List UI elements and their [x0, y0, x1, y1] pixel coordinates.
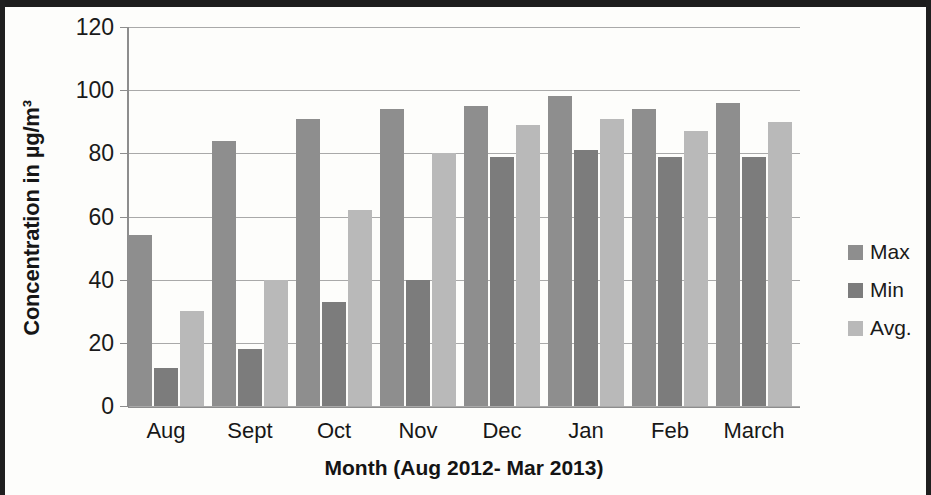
bar-avg-nov [432, 153, 456, 406]
page-frame-top-border [0, 0, 931, 7]
x-axis-tick-label: Sept [227, 418, 272, 444]
x-axis-tick-label: Jan [568, 418, 603, 444]
chart-legend: MaxMinAvg. [848, 233, 912, 347]
bar-avg-aug [180, 311, 204, 406]
y-axis-tick-label: 20 [88, 329, 114, 356]
bar-max-march [716, 103, 740, 406]
bar-max-oct [296, 119, 320, 406]
bar-group [716, 27, 792, 406]
bar-avg-feb [684, 131, 708, 406]
legend-item-max: Max [848, 233, 912, 271]
bar-min-dec [490, 157, 514, 407]
x-axis-tick-label: Dec [482, 418, 521, 444]
bar-avg-march [768, 122, 792, 406]
legend-label: Max [870, 240, 910, 264]
x-axis-tick-label: March [723, 418, 784, 444]
legend-label: Min [870, 278, 904, 302]
bar-min-jan [574, 150, 598, 406]
y-axis-tick-label: 80 [88, 140, 114, 167]
x-axis-tick-label: Oct [317, 418, 351, 444]
bar-avg-oct [348, 210, 372, 406]
bar-group [296, 27, 372, 406]
bar-min-nov [406, 280, 430, 406]
page-frame-left-border [0, 0, 5, 495]
bar-max-jan [548, 96, 572, 406]
x-axis-tick-label: Nov [398, 418, 437, 444]
bar-max-feb [632, 109, 656, 406]
bar-group [212, 27, 288, 406]
bar-min-oct [322, 302, 346, 406]
legend-item-avg: Avg. [848, 309, 912, 347]
bar-min-feb [658, 157, 682, 407]
y-axis-tick-label: 60 [88, 203, 114, 230]
bar-avg-sept [264, 280, 288, 406]
legend-swatch-icon [848, 321, 863, 336]
y-axis-tick-label: 100 [76, 77, 114, 104]
y-axis-tick-label: 40 [88, 266, 114, 293]
bar-avg-jan [600, 119, 624, 406]
x-axis-tick-label: Aug [146, 418, 185, 444]
bar-max-nov [380, 109, 404, 406]
page-frame-right-border [926, 0, 931, 495]
bar-group [632, 27, 708, 406]
chart-page: Concentration in µg/m³ 020406080100120 M… [0, 0, 931, 495]
legend-swatch-icon [848, 245, 863, 260]
y-axis-tick-label: 120 [76, 14, 114, 41]
bar-avg-dec [516, 125, 540, 406]
bar-group [464, 27, 540, 406]
bar-group [128, 27, 204, 406]
plot-area: 020406080100120 [128, 27, 800, 406]
legend-swatch-icon [848, 283, 863, 298]
y-axis-tick [120, 406, 129, 407]
bar-group [380, 27, 456, 406]
bar-min-aug [154, 368, 178, 406]
x-axis-title: Month (Aug 2012- Mar 2013) [128, 456, 800, 480]
y-axis-tick-label: 0 [101, 393, 114, 420]
bar-max-aug [128, 235, 152, 406]
legend-label: Avg. [870, 316, 912, 340]
y-gridline [128, 406, 800, 407]
bar-max-sept [212, 141, 236, 406]
bar-min-march [742, 157, 766, 407]
legend-item-min: Min [848, 271, 912, 309]
bar-max-dec [464, 106, 488, 406]
y-axis-title: Concentration in µg/m³ [19, 18, 45, 418]
x-axis-tick-label: Feb [651, 418, 689, 444]
bar-min-sept [238, 349, 262, 406]
bar-group [548, 27, 624, 406]
